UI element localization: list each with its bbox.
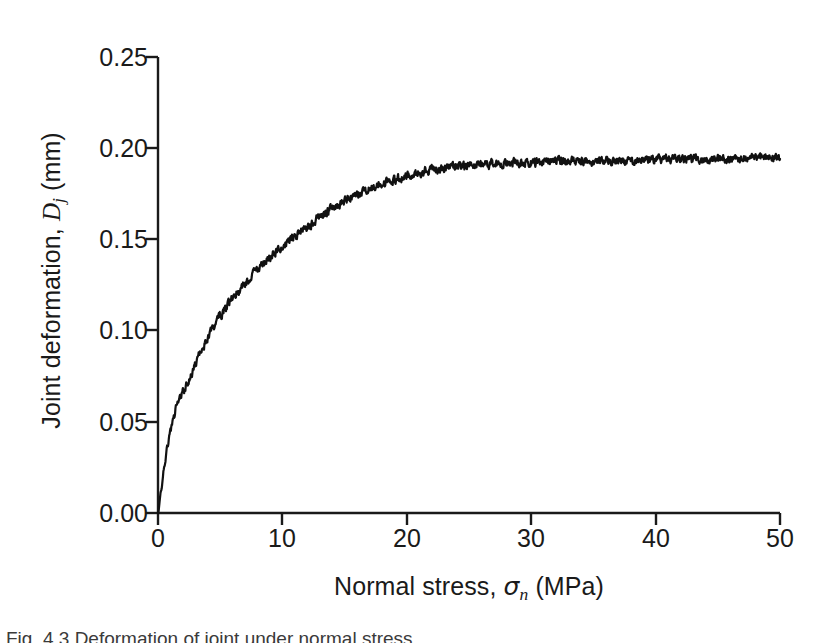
x-tick-label: 10 bbox=[242, 524, 322, 553]
x-tick-label: 40 bbox=[616, 524, 696, 553]
x-tick-label: 50 bbox=[740, 524, 820, 553]
figure-chart: Joint deformation, Dj (mm) Normal stress… bbox=[0, 0, 821, 643]
y-tick-label: 0.10 bbox=[52, 316, 148, 345]
data-series-line bbox=[158, 153, 780, 513]
x-tick-label: 0 bbox=[118, 524, 198, 553]
x-tick-label-group: 0 10 20 30 40 50 bbox=[0, 524, 821, 564]
figure-caption: Fig. 4.3 Deformation of joint under norm… bbox=[6, 628, 816, 643]
x-axis-title-symbol: σ bbox=[504, 572, 520, 601]
x-axis-title-suffix: (MPa) bbox=[528, 572, 604, 600]
x-axis-title-prefix: Normal stress, bbox=[334, 572, 504, 600]
y-tick-label: 0.15 bbox=[52, 225, 148, 254]
y-tick-label: 0.20 bbox=[52, 134, 148, 163]
y-tick-label: 0.25 bbox=[52, 43, 148, 72]
x-tick-label: 20 bbox=[367, 524, 447, 553]
x-tick-label: 30 bbox=[491, 524, 571, 553]
y-tick-label: 0.05 bbox=[52, 408, 148, 437]
axis-spines bbox=[158, 57, 780, 513]
x-axis-title: Normal stress, σn (MPa) bbox=[158, 572, 780, 605]
